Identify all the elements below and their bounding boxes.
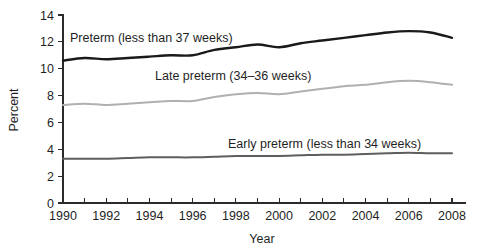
y-axis-tick-label: 6 <box>47 116 54 130</box>
x-axis-tick-label: 2002 <box>308 209 336 223</box>
x-axis-tick-label: 1996 <box>179 209 207 223</box>
x-axis-tick-label: 1992 <box>92 209 120 223</box>
y-axis-tick-label: 2 <box>47 170 54 184</box>
x-axis-tick-label: 2000 <box>265 209 293 223</box>
x-axis-tick-label: 1990 <box>49 209 77 223</box>
x-axis: 1990199219941996199820002002200420062008 <box>49 198 466 223</box>
series-label: Early preterm (less than 34 weeks) <box>228 137 421 151</box>
y-axis-tick-label: 8 <box>47 89 54 103</box>
series-line <box>63 81 452 105</box>
x-axis-tick-label: 2004 <box>352 209 380 223</box>
x-axis-title: Year <box>249 232 274 246</box>
x-axis-tick-label: 1994 <box>136 209 164 223</box>
x-axis-tick-label: 2006 <box>395 209 423 223</box>
series-label: Late preterm (34–36 weeks) <box>155 69 311 83</box>
series-line <box>63 153 452 159</box>
y-axis-tick-label: 12 <box>40 35 54 49</box>
series-annotations: Preterm (less than 37 weeks)Late preterm… <box>70 31 421 151</box>
chart-plot-area: 02468101214 1990199219941996199820002002… <box>0 0 485 250</box>
preterm-birth-rate-line-chart: 02468101214 1990199219941996199820002002… <box>0 0 485 250</box>
y-axis-tick-label: 4 <box>47 143 54 157</box>
y-axis-title: Percent <box>7 88 21 132</box>
series-label: Preterm (less than 37 weeks) <box>70 31 233 45</box>
y-axis-tick-label: 10 <box>40 62 54 76</box>
x-axis-tick-label: 2008 <box>438 209 466 223</box>
y-axis: 02468101214 <box>40 9 63 211</box>
y-axis-tick-label: 14 <box>40 9 54 23</box>
x-axis-tick-label: 1998 <box>222 209 250 223</box>
